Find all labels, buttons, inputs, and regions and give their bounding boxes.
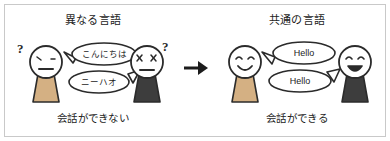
panel-right-scene: Hello Hello <box>204 30 390 106</box>
figure-b-head <box>131 46 163 78</box>
figure-a-head <box>30 46 62 78</box>
figure-d-head <box>339 46 371 78</box>
speech-bubble-hello-right: Hello <box>269 69 340 92</box>
speech-bubble-hello-right-text: Hello <box>290 76 311 86</box>
panel-different-languages: 異なる言語 ? こんにちは <box>0 0 186 141</box>
panel-left-title: 異なる言語 <box>0 11 186 27</box>
panel-left-scene: ? こんにちは <box>0 30 186 106</box>
speech-bubble-hello-left-text: Hello <box>294 48 315 58</box>
panel-right-caption: 会話ができる <box>204 110 390 125</box>
speech-bubble-nihao-text: ニーハオ <box>81 77 117 87</box>
speech-bubble-hello-left: Hello <box>262 42 335 64</box>
figure-c-head <box>229 46 261 78</box>
speech-bubble-konnichiwa: こんにちは <box>64 43 136 65</box>
speech-bubble-konnichiwa-text: こんにちは <box>82 49 127 59</box>
speech-bubble-nihao: ニーハオ <box>69 70 140 93</box>
panel-common-language: 共通の言語 Hello <box>204 0 390 141</box>
panel-right-title: 共通の言語 <box>204 11 390 27</box>
panel-left-caption: 会話ができない <box>0 110 186 125</box>
question-mark-right: ? <box>162 39 169 54</box>
question-mark-left: ? <box>17 41 24 56</box>
illustration-figure: 異なる言語 ? こんにちは <box>0 0 390 141</box>
